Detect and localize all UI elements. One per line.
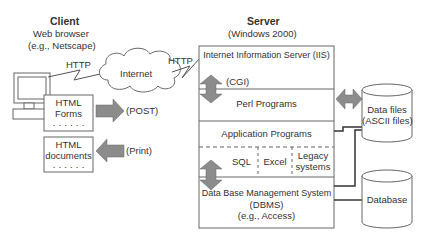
post-arrow <box>96 99 124 122</box>
dbms-label-2: (DBMS) <box>199 199 334 210</box>
connector-dbms-datafiles <box>334 130 364 186</box>
forms-line2: Forms <box>44 108 93 119</box>
dbms-label-1: Data Base Management System <box>199 188 334 199</box>
legacy-label-1: Legacy <box>292 150 334 161</box>
internet-label: Internet <box>120 68 152 79</box>
client-subtitle: Web browser <box>33 28 89 39</box>
cgi-label: (CGI) <box>226 76 249 87</box>
server-http-label: HTTP <box>168 55 193 66</box>
documents-line2: documents <box>44 150 93 161</box>
documents-dots: · · · · · · <box>44 161 93 172</box>
app-label: Application Programs <box>199 128 334 139</box>
perl-label: Perl Programs <box>199 98 334 109</box>
legacy-label-2: systems <box>292 161 334 172</box>
http-link-client <box>48 70 100 80</box>
dbms-label-3: (e.g., Access) <box>199 210 334 221</box>
print-label: (Print) <box>126 145 152 156</box>
client-title: Client <box>50 16 79 27</box>
excel-label: Excel <box>258 156 292 167</box>
post-label: (POST) <box>126 105 158 116</box>
sql-label: SQL <box>225 156 258 167</box>
forms-line1: HTML <box>44 97 93 108</box>
server-title: Server <box>247 16 280 27</box>
documents-line1: HTML <box>44 139 93 150</box>
forms-dots: · · · · · · <box>44 119 93 130</box>
datafiles-label-1: Data files <box>362 104 412 115</box>
iis-label: Internet Information Server (IIS) <box>199 50 334 61</box>
print-arrow <box>96 139 124 162</box>
database-label: Database <box>362 194 412 205</box>
client-example: (e.g., Netscape) <box>28 40 96 51</box>
server-subtitle: (Windows 2000) <box>228 28 297 39</box>
client-http-label: HTTP <box>66 59 91 70</box>
datafiles-arrow <box>336 89 362 109</box>
datafiles-label-2: (ASCII files) <box>362 115 412 126</box>
